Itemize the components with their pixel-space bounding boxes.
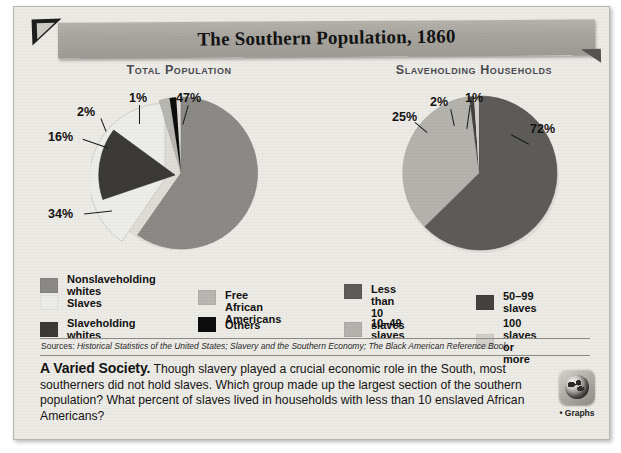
title-banner: The Southern Population, 1860: [32, 19, 595, 61]
legend-label-line-1: Free African: [225, 289, 263, 313]
legend-label-nonslaveholding-whites: Nonslaveholding whites: [67, 273, 156, 297]
banner-fold-left-highlight-icon: [37, 23, 56, 40]
pie-label-2-percent: 2%: [430, 95, 448, 109]
pie-chart-total-population: [91, 83, 271, 255]
legend-label-slaves: Slaves: [67, 297, 102, 309]
legend-label-others: Others: [225, 319, 260, 331]
caption-text: A Varied Society. Though slavery played …: [40, 361, 538, 424]
globe-icon[interactable]: [559, 369, 595, 405]
legend-swatch-10-49-slaves: [344, 322, 362, 337]
chart-title-total-population: Total Population: [44, 63, 314, 77]
page-root: The Southern Population, 1860 Total Popu…: [0, 0, 621, 453]
pie-label-2-percent: 2%: [77, 105, 95, 119]
pie-label-72-percent: 72%: [530, 122, 555, 136]
pie-area-slaveholding-households: 2% 1% 25% 72%: [334, 77, 614, 262]
pie-label-1-percent: 1%: [465, 91, 483, 105]
pie-label-16-percent: 16%: [48, 130, 73, 144]
legend-label-line-1: Less than: [371, 283, 396, 307]
pie-area-total-population: 2% 1% 47% 16% 34%: [44, 77, 314, 262]
pie-label-1-percent: 1%: [129, 91, 147, 105]
banner-ribbon: The Southern Population, 1860: [58, 19, 595, 58]
legend-swatch-slaveholding-whites: [40, 322, 58, 337]
pie-label-47-percent: 47%: [176, 91, 201, 105]
banner-fold-right-icon: [581, 49, 601, 63]
legend-label-100-slaves-or-more: 100 slaves or more: [503, 317, 537, 365]
legend-swatch-less-than-10-slaves: [344, 284, 362, 299]
leader-line-1-percent: [139, 105, 140, 124]
legend-item-nonslaveholding-whites[interactable]: Nonslaveholding whites: [40, 273, 156, 297]
divider-above-sources: [40, 338, 590, 339]
graphs-badge-label: • Graphs: [555, 408, 599, 418]
sources-label: Sources:: [41, 341, 75, 351]
globe-sphere-icon: [565, 375, 589, 399]
legend-swatch-others: [198, 317, 216, 332]
legend-swatch-slaves: [40, 295, 58, 310]
legend-item-slaves[interactable]: Slaves: [40, 295, 102, 310]
sources-line: Sources: Historical Statistics of the Un…: [41, 341, 507, 351]
graphs-badge[interactable]: • Graphs: [555, 369, 599, 418]
figure-card: The Southern Population, 1860 Total Popu…: [13, 6, 610, 440]
legend-swatch-free-african-americans: [198, 290, 216, 305]
legend-item-50-99-slaves[interactable]: 50–99 slaves: [476, 290, 537, 314]
caption-lead: A Varied Society.: [40, 360, 150, 376]
sources-titles: Historical Statistics of the United Stat…: [77, 341, 508, 351]
pie-label-25-percent: 25%: [392, 110, 417, 124]
pie-label-34-percent: 34%: [48, 207, 73, 221]
chart-title-slaveholding-households: Slaveholding Households: [334, 63, 614, 77]
legend-swatch-50-99-slaves: [476, 295, 494, 310]
chart-total-population: Total Population: [44, 63, 314, 262]
chart-slaveholding-households: Slaveholding Households 2% 1% 25% 72%: [334, 63, 614, 262]
legend-swatch-nonslaveholding-whites: [40, 278, 58, 293]
legend-item-others[interactable]: Others: [198, 317, 260, 332]
divider-below-sources: [40, 355, 590, 356]
legend-label-50-99-slaves: 50–99 slaves: [503, 290, 537, 314]
page-title: The Southern Population, 1860: [58, 24, 595, 53]
